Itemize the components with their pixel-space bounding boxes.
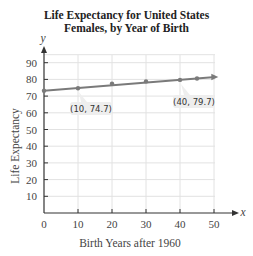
callout-label: (40, 79.7) [173,97,215,107]
data-point [42,89,46,93]
callout-pointer [181,84,190,95]
x-tick-label: 40 [175,218,187,230]
tick-labels: 01020304050102030405060708090 [26,57,220,230]
x-tick-label: 10 [73,218,85,230]
x-axis-symbol: x [239,206,246,218]
callout-pointer [79,92,87,102]
y-tick-label: 30 [26,157,38,169]
data-point [76,86,80,90]
axes [41,46,239,216]
x-axis-arrow-icon [232,210,239,216]
y-tick-label: 10 [26,190,38,202]
data-point [195,76,199,80]
x-tick-label: 50 [209,218,221,230]
y-axis-symbol: y [39,32,46,45]
x-tick-label: 0 [41,218,47,230]
y-tick-label: 40 [26,140,38,152]
x-tick-label: 30 [141,218,153,230]
x-axis-title: Birth Years after 1960 [79,237,181,249]
data-point [178,78,182,82]
y-axis-arrow-icon [41,46,47,53]
data-series [42,74,219,93]
chart-plot: 01020304050102030405060708090 (10, 74.7)… [0,0,253,256]
y-axis-title: Life Expectancy [9,108,22,184]
y-tick-label: 60 [26,107,38,119]
y-tick-label: 20 [26,174,38,186]
data-point [144,79,148,83]
x-tick-label: 20 [107,218,119,230]
y-tick-label: 50 [26,124,38,136]
data-point [110,81,114,85]
callout-label: (10, 74.7) [70,104,112,114]
annotations: (10, 74.7)(40, 79.7) [70,84,215,115]
y-tick-label: 70 [26,90,38,102]
y-tick-label: 80 [26,73,38,85]
y-tick-label: 90 [26,57,38,69]
